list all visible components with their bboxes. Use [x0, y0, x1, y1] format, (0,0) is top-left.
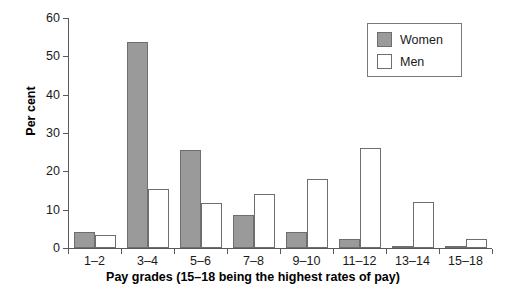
legend-swatch-men-icon	[377, 54, 392, 69]
x-axis-tick-label: 11–12	[343, 254, 377, 268]
y-axis-tick-label: 20	[46, 164, 60, 178]
y-axis-tick-label: 10	[46, 203, 60, 217]
x-axis-tick-mark	[174, 249, 175, 254]
x-axis-tick-mark	[280, 249, 281, 254]
x-axis-tick-label: 9–10	[293, 254, 321, 268]
bar-women-13-14	[392, 246, 413, 248]
y-axis-tick-label: 0	[53, 241, 60, 255]
bar-men-7-8	[254, 194, 275, 248]
x-axis-tick-label: 3–4	[137, 254, 158, 268]
bar-men-11-12	[360, 148, 381, 248]
bar-chart: Per cent 0102030405060 1–23–45–67–89–101…	[0, 0, 506, 291]
bar-women-5-6	[180, 150, 201, 248]
bar-men-5-6	[201, 203, 222, 248]
legend: Women Men	[367, 23, 462, 77]
x-axis-tick-mark	[439, 249, 440, 254]
y-axis-tick-label: 40	[46, 88, 60, 102]
bar-men-13-14	[413, 202, 434, 248]
y-axis-tick-mark	[63, 56, 68, 57]
x-axis-tick-mark-origin	[68, 249, 69, 254]
x-axis-tick-mark	[121, 249, 122, 254]
legend-swatch-women-icon	[377, 32, 392, 47]
legend-item-men: Men	[377, 54, 424, 69]
x-axis-tick-mark	[492, 249, 493, 254]
y-axis-tick-mark	[63, 95, 68, 96]
y-axis-tick-label: 60	[46, 11, 60, 25]
legend-label-men: Men	[400, 55, 424, 69]
x-axis-tick-label: 13–14	[395, 254, 430, 268]
bar-women-7-8	[233, 215, 254, 248]
x-axis-tick-mark	[386, 249, 387, 254]
y-axis-tick-label: 50	[46, 49, 60, 63]
x-axis-tick-label: 7–8	[243, 254, 264, 268]
bar-women-11-12	[339, 239, 360, 248]
bar-men-9-10	[307, 179, 328, 248]
bar-women-9-10	[286, 232, 307, 248]
x-axis-tick-mark	[227, 249, 228, 254]
y-axis-tick-mark	[63, 210, 68, 211]
y-axis-tick-mark	[63, 18, 68, 19]
x-axis-tick-label: 15–18	[448, 254, 483, 268]
y-axis-tick-mark	[63, 133, 68, 134]
bar-women-15-18	[445, 246, 466, 248]
legend-item-women: Women	[377, 32, 443, 47]
x-axis-tick-mark	[333, 249, 334, 254]
x-axis-tick-label: 1–2	[84, 254, 105, 268]
x-axis-tick-label: 5–6	[190, 254, 211, 268]
legend-label-women: Women	[400, 33, 443, 47]
y-axis-line	[68, 18, 69, 249]
y-axis-tick-mark	[63, 171, 68, 172]
bar-men-1-2	[95, 235, 116, 248]
y-axis-tick-label: 30	[46, 126, 60, 140]
y-axis-title: Per cent	[24, 71, 38, 151]
bar-men-15-18	[466, 239, 487, 248]
bar-women-1-2	[74, 232, 95, 248]
x-axis-title: Pay grades (15–18 being the highest rate…	[0, 270, 506, 284]
bar-women-3-4	[127, 42, 148, 248]
bar-men-3-4	[148, 189, 169, 248]
